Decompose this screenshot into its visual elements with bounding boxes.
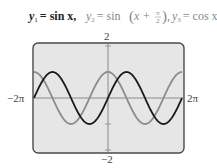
equation-title: y1= sin x, y2= sin ( x + π 2 ) , y3= cos… [27, 8, 217, 25]
frac-numerator: π [156, 9, 160, 17]
x-max-label: 2π [187, 92, 199, 104]
svg-text:,: , [167, 9, 170, 23]
y-min-label: −2 [101, 153, 113, 165]
y-max-label: 2 [104, 30, 110, 42]
equation-y2: y2= sin [85, 9, 121, 24]
equation-y2-arg: x + [133, 9, 150, 23]
equation-y1: y1= sin x, [27, 9, 76, 24]
x-min-label: −2π [7, 92, 25, 104]
equation-y3: y3= cos x [171, 9, 217, 24]
frac-denominator: 2 [156, 17, 160, 25]
chart-figure: y1= sin x, y2= sin ( x + π 2 ) , y3= cos… [0, 0, 217, 168]
